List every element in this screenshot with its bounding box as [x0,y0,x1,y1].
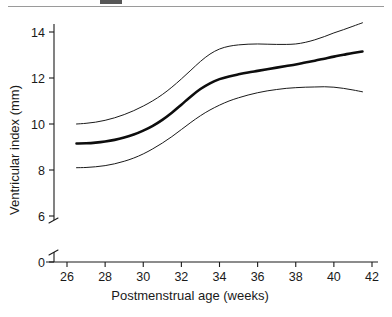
x-tick-label: 34 [213,270,227,284]
x-tick-label: 36 [251,270,265,284]
y-axis-title: Ventricular index (mm) [7,85,22,215]
y-tick-label: 6 [38,210,45,224]
x-tick-label: 32 [174,270,188,284]
y-tick-label: 0 [38,256,45,270]
x-tick-label: 30 [136,270,150,284]
curve-lower-percentile [77,87,363,168]
x-tick-label: 28 [98,270,112,284]
ventricular-index-chart: 068101214262830323436384042 Ventricular … [0,0,392,317]
chart-tick-labels: 068101214262830323436384042 [31,26,379,285]
x-tick-label: 42 [365,270,379,284]
y-tick-label: 8 [38,164,45,178]
x-tick-label: 38 [289,270,303,284]
x-tick-label: 26 [60,270,74,284]
curve-median [77,52,363,144]
x-axis-title: Postmenstrual age (weeks) [111,288,269,303]
y-tick-label: 10 [31,118,45,132]
curve-upper-percentile [77,23,363,124]
chart-curves [77,23,363,168]
y-tick-label: 12 [31,72,45,86]
x-tick-label: 40 [327,270,341,284]
chart-ticks [49,32,372,267]
y-axis-break-mark [49,218,58,255]
y-tick-label: 14 [31,26,45,40]
